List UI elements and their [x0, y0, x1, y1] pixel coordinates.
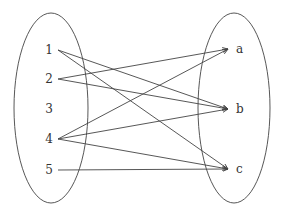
element-label-5: 5	[45, 163, 53, 177]
element-label-1: 1	[45, 43, 53, 57]
mapping-diagram: 12345abc	[0, 0, 281, 213]
element-label-b: b	[236, 102, 244, 116]
element-label-2: 2	[45, 72, 53, 86]
element-label-3: 3	[45, 102, 53, 116]
arrow-1-to-b	[58, 50, 228, 109]
element-label-a: a	[236, 42, 243, 56]
element-label-4: 4	[45, 132, 53, 146]
arrow-4-to-b	[58, 109, 228, 139]
arrow-1-to-c	[58, 50, 228, 169]
codomain-set-ellipse	[198, 13, 270, 203]
element-label-c: c	[236, 162, 243, 176]
arrow-5-to-c	[58, 169, 228, 170]
diagram-canvas: 12345abc	[0, 0, 281, 213]
